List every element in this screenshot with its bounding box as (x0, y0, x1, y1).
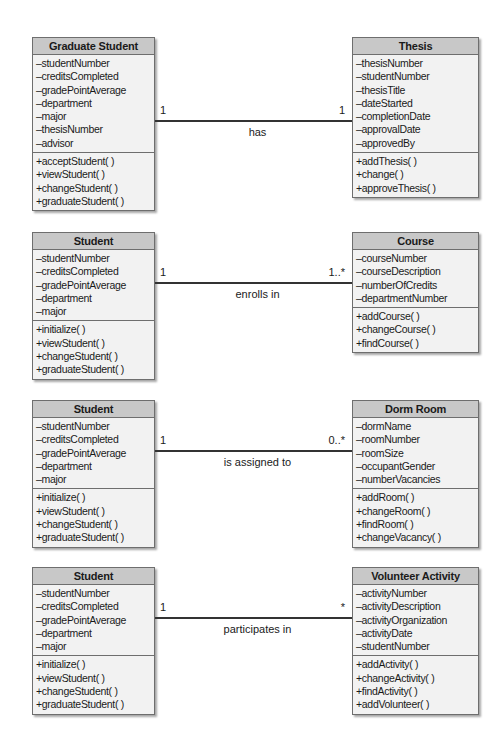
attribute: –studentNumber (36, 420, 154, 433)
attribute: –activityDescription (356, 600, 478, 613)
attribute: –approvedBy (356, 137, 478, 150)
methods-section: +addThesis( )+change( )+approveThesis( ) (353, 152, 478, 197)
attribute: –creditsCompleted (36, 265, 154, 278)
methods-section: +acceptStudent( )+viewStudent( )+changeS… (33, 152, 154, 210)
attribute: –department (36, 97, 154, 110)
methods-section: +addCourse( )+changeCourse( )+findCourse… (353, 307, 478, 352)
attribute: –department (36, 460, 154, 473)
class-box-right[interactable]: Volunteer Activity–activityNumber–activi… (352, 567, 479, 715)
right-multiplicity: 0..* (312, 434, 345, 446)
left-multiplicity: 1 (160, 434, 166, 446)
association-line[interactable] (155, 617, 352, 619)
class-box-left[interactable]: Graduate Student–studentNumber–creditsCo… (32, 37, 155, 211)
association-label: enrolls in (158, 288, 358, 300)
class-box-right[interactable]: Course–courseNumber–courseDescription–nu… (352, 232, 479, 353)
class-name: Dorm Room (353, 401, 478, 418)
method: +viewStudent( ) (36, 337, 154, 350)
method: +findRoom( ) (356, 518, 478, 531)
method: +viewStudent( ) (36, 168, 154, 181)
attribute: –thesisNumber (36, 123, 154, 136)
method: +acceptStudent( ) (36, 155, 154, 168)
class-box-right[interactable]: Thesis–thesisNumber–studentNumber–thesis… (352, 37, 479, 198)
attribute: –roomSize (356, 447, 478, 460)
attribute: –major (36, 473, 154, 486)
attribute: –studentNumber (36, 587, 154, 600)
attribute: –gradePointAverage (36, 279, 154, 292)
attribute: –numberVacancies (356, 473, 478, 486)
attribute: –creditsCompleted (36, 70, 154, 83)
method: +changeVacancy( ) (356, 531, 478, 544)
methods-section: +initialize( )+viewStudent( )+changeStud… (33, 655, 154, 713)
association-line[interactable] (155, 450, 352, 452)
method: +addThesis( ) (356, 155, 478, 168)
attribute: –studentNumber (356, 640, 478, 653)
right-multiplicity: 1..* (312, 266, 345, 278)
association-label: is assigned to (158, 456, 358, 468)
attribute: –courseNumber (356, 252, 478, 265)
attribute: –gradePointAverage (36, 84, 154, 97)
association-line[interactable] (155, 120, 352, 122)
attribute: –occupantGender (356, 460, 478, 473)
class-box-left[interactable]: Student–studentNumber–creditsCompleted–g… (32, 567, 155, 715)
attribute: –advisor (36, 137, 154, 150)
method: +findActivity( ) (356, 685, 478, 698)
method: +addCourse( ) (356, 310, 478, 323)
method: +graduateStudent( ) (36, 363, 154, 376)
attribute: –departmentNumber (356, 292, 478, 305)
method: +changeStudent( ) (36, 518, 154, 531)
class-box-left[interactable]: Student–studentNumber–creditsCompleted–g… (32, 400, 155, 548)
method: +changeActivity( ) (356, 672, 478, 685)
method: +changeCourse( ) (356, 323, 478, 336)
method: +graduateStudent( ) (36, 195, 154, 208)
attribute: –major (36, 110, 154, 123)
right-multiplicity: * (312, 601, 345, 613)
attributes-section: –courseNumber–courseDescription–numberOf… (353, 250, 478, 307)
attribute: –major (36, 305, 154, 318)
attributes-section: –studentNumber–creditsCompleted–gradePoi… (33, 418, 154, 488)
methods-section: +initialize( )+viewStudent( )+changeStud… (33, 488, 154, 546)
attribute: –numberOfCredits (356, 279, 478, 292)
class-name: Student (33, 233, 154, 250)
class-name: Student (33, 401, 154, 418)
method: +changeStudent( ) (36, 685, 154, 698)
class-name: Thesis (353, 38, 478, 55)
method: +approveThesis( ) (356, 182, 478, 195)
method: +addRoom( ) (356, 491, 478, 504)
attribute: –gradePointAverage (36, 447, 154, 460)
left-multiplicity: 1 (160, 266, 166, 278)
attribute: –studentNumber (36, 252, 154, 265)
attribute: –roomNumber (356, 433, 478, 446)
attributes-section: –dormName–roomNumber–roomSize–occupantGe… (353, 418, 478, 488)
attributes-section: –studentNumber–creditsCompleted–gradePoi… (33, 55, 154, 152)
method: +initialize( ) (36, 658, 154, 671)
attribute: –thesisNumber (356, 57, 478, 70)
method: +viewStudent( ) (36, 505, 154, 518)
method: +findCourse( ) (356, 337, 478, 350)
method: +changeStudent( ) (36, 350, 154, 363)
attributes-section: –studentNumber–creditsCompleted–gradePoi… (33, 250, 154, 320)
method: +initialize( ) (36, 323, 154, 336)
attribute: –activityDate (356, 627, 478, 640)
attribute: –activityOrganization (356, 614, 478, 627)
method: +change( ) (356, 168, 478, 181)
association-line[interactable] (155, 282, 352, 284)
class-box-left[interactable]: Student–studentNumber–creditsCompleted–g… (32, 232, 155, 380)
class-name: Course (353, 233, 478, 250)
attribute: –creditsCompleted (36, 433, 154, 446)
class-name: Volunteer Activity (353, 568, 478, 585)
attribute: –studentNumber (356, 70, 478, 83)
right-multiplicity: 1 (312, 104, 345, 116)
attributes-section: –studentNumber–creditsCompleted–gradePoi… (33, 585, 154, 655)
method: +changeRoom( ) (356, 505, 478, 518)
methods-section: +initialize( )+viewStudent( )+changeStud… (33, 320, 154, 378)
method: +initialize( ) (36, 491, 154, 504)
class-box-right[interactable]: Dorm Room–dormName–roomNumber–roomSize–o… (352, 400, 479, 548)
left-multiplicity: 1 (160, 104, 166, 116)
class-name: Student (33, 568, 154, 585)
association-label: participates in (158, 623, 358, 635)
attributes-section: –activityNumber–activityDescription–acti… (353, 585, 478, 655)
attribute: –dateStarted (356, 97, 478, 110)
left-multiplicity: 1 (160, 601, 166, 613)
attributes-section: –thesisNumber–studentNumber–thesisTitle–… (353, 55, 478, 152)
attribute: –completionDate (356, 110, 478, 123)
